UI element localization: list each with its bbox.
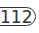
count-badge-value: 112	[0, 6, 36, 28]
